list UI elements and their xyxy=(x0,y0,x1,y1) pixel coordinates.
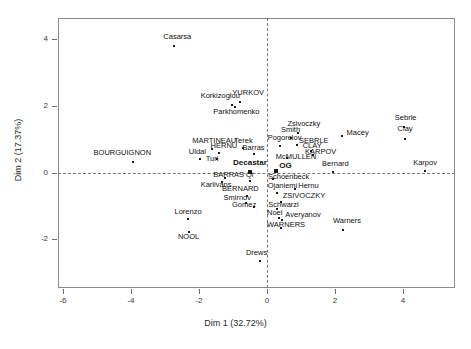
point-label: NOOL xyxy=(178,233,199,241)
data-point xyxy=(132,161,134,163)
x-axis-tick xyxy=(131,289,132,294)
point-label: OG xyxy=(279,162,291,170)
data-point xyxy=(231,104,233,106)
point-label: Barras xyxy=(243,144,265,152)
point-label: Drews xyxy=(246,249,267,257)
data-point xyxy=(276,192,278,194)
data-point xyxy=(342,229,344,231)
y-axis-title: Dim 2 (17.37%) xyxy=(13,80,23,220)
y-axis-tick xyxy=(52,106,57,107)
point-label: Qi xyxy=(246,171,254,179)
data-point xyxy=(404,138,406,140)
point-label: Noel xyxy=(267,209,282,217)
x-axis-tick-label: 0 xyxy=(247,296,287,305)
point-label: Macey xyxy=(347,129,369,137)
point-label: Warners xyxy=(333,217,361,225)
point-label: Karpov xyxy=(413,159,437,167)
y-axis-tick-label: -2 xyxy=(28,234,48,243)
point-label: Schoenbeck xyxy=(268,173,309,181)
y-axis-tick xyxy=(52,239,57,240)
point-label: Sebrle xyxy=(395,114,417,122)
point-label: ZSIVOCZKY xyxy=(283,192,326,200)
x-axis-tick xyxy=(267,289,268,294)
x-axis-tick-label: 2 xyxy=(315,296,355,305)
data-point xyxy=(199,158,201,160)
y-axis-tick-label: 2 xyxy=(28,101,48,110)
data-point xyxy=(187,218,189,220)
data-point xyxy=(253,153,255,155)
pca-individuals-factor-map: -6-4-2024420-2 CasarsaKorkizoglouYURKOVP… xyxy=(0,0,471,349)
x-axis-tick-label: -2 xyxy=(179,296,219,305)
data-point xyxy=(332,171,334,173)
point-label: Ojaniemi xyxy=(268,182,298,190)
data-point xyxy=(249,180,251,182)
point-label: Turi xyxy=(206,155,219,163)
point-label: BOURGUIGNON xyxy=(94,149,152,157)
data-point xyxy=(173,45,175,47)
x-axis-tick-label: -4 xyxy=(111,296,151,305)
data-point xyxy=(278,217,280,219)
data-point xyxy=(296,144,298,146)
y-axis-tick xyxy=(52,173,57,174)
data-point xyxy=(341,135,343,137)
x-axis-tick xyxy=(335,289,336,294)
point-label: Pogorelov xyxy=(268,134,302,142)
vertical-reference-line xyxy=(267,18,268,288)
data-point xyxy=(279,145,281,147)
data-point xyxy=(424,170,426,172)
point-label: Bernard xyxy=(322,160,349,168)
point-label: Averyanov xyxy=(285,211,320,219)
data-point xyxy=(239,101,241,103)
data-point xyxy=(259,260,261,262)
horizontal-reference-line xyxy=(58,173,455,174)
point-label: Uldal xyxy=(189,148,206,156)
point-label: HERNU xyxy=(211,142,238,150)
point-label: Parkhomenko xyxy=(213,108,259,116)
point-label: Clay xyxy=(398,125,413,133)
y-axis-tick-label: 0 xyxy=(28,168,48,177)
point-label: Gomez xyxy=(232,201,256,209)
point-label: Lorenzo xyxy=(175,208,202,216)
point-label: YURKOV xyxy=(232,89,264,97)
x-axis-tick-label: 4 xyxy=(383,296,423,305)
point-label: Decastar xyxy=(233,159,267,167)
point-label: Hernu xyxy=(298,182,318,190)
y-axis-tick xyxy=(52,39,57,40)
point-label: McMULLEN xyxy=(276,153,316,161)
point-label: BARRAS xyxy=(213,171,244,179)
x-axis-title: Dim 1 (32.72%) xyxy=(0,318,471,328)
x-axis-tick xyxy=(199,289,200,294)
x-axis-tick-label: -6 xyxy=(43,296,83,305)
point-label: BERNARD xyxy=(222,185,259,193)
y-axis-tick-label: 4 xyxy=(28,34,48,43)
x-axis-tick xyxy=(403,289,404,294)
point-label: Casarsa xyxy=(163,33,191,41)
point-label: WARNERS xyxy=(267,221,305,229)
x-axis-tick xyxy=(63,289,64,294)
